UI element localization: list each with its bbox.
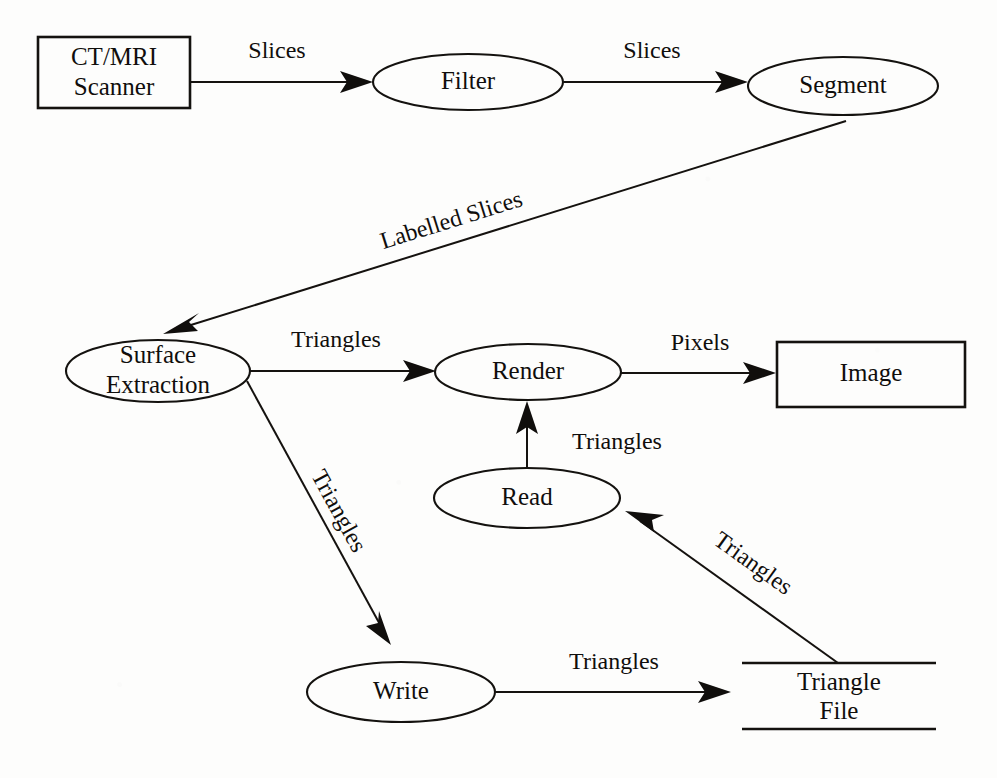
edge-label-triangles-1: Triangles <box>291 326 381 352</box>
edge-line <box>178 121 846 329</box>
scanner-label-line1: CT/MRI <box>71 43 157 70</box>
arrow-head-icon <box>366 611 391 645</box>
edge-filter-to-segment: Slices <box>564 37 748 94</box>
node-surface-extraction[interactable]: Surface Extraction <box>66 340 250 402</box>
node-segment[interactable]: Segment <box>748 57 938 115</box>
node-filter[interactable]: Filter <box>373 54 563 110</box>
node-render[interactable]: Render <box>435 344 621 400</box>
edge-render-to-image: Pixels <box>621 329 776 385</box>
edge-label-pixels: Pixels <box>671 329 730 355</box>
arrow-head-icon <box>625 511 664 532</box>
pipeline-diagram: Slices Slices Labelled Slices Triangles … <box>0 0 997 778</box>
triangle-file-label-line2: File <box>820 697 859 724</box>
edge-surface-to-write: Triangles <box>247 381 391 645</box>
edge-read-to-render: Triangles <box>516 401 662 468</box>
edge-label-slices-2: Slices <box>623 37 680 63</box>
node-image[interactable]: Image <box>777 342 965 407</box>
node-scanner[interactable]: CT/MRI Scanner <box>38 37 190 108</box>
edge-label-triangles-5: Triangles <box>709 526 797 600</box>
filter-label: Filter <box>441 67 496 94</box>
surface-extraction-label-line1: Surface <box>120 341 196 368</box>
write-label: Write <box>373 677 429 704</box>
node-read[interactable]: Read <box>434 468 620 528</box>
triangle-file-label-line1: Triangle <box>797 668 881 695</box>
read-label: Read <box>501 483 553 510</box>
image-label: Image <box>840 359 902 386</box>
edge-surface-to-render: Triangles <box>250 326 436 383</box>
scanner-label-line2: Scanner <box>74 73 155 100</box>
edge-file-to-read: Triangles <box>625 511 838 663</box>
node-triangle-file[interactable]: Triangle File <box>742 663 936 729</box>
edge-scanner-to-filter: Slices <box>191 37 373 94</box>
render-label: Render <box>492 357 565 384</box>
edge-segment-to-surface: Labelled Slices <box>163 121 846 334</box>
edge-write-to-file: Triangles <box>496 648 731 704</box>
surface-extraction-label-line2: Extraction <box>106 371 211 398</box>
edge-line <box>247 381 383 630</box>
edge-label-triangles-4: Triangles <box>569 648 659 674</box>
node-write[interactable]: Write <box>307 662 495 722</box>
edge-label-slices-1: Slices <box>248 37 305 63</box>
segment-label: Segment <box>799 71 887 98</box>
edge-label-triangles-2: Triangles <box>572 428 662 454</box>
edge-label-triangles-3: Triangles <box>306 465 372 556</box>
diagram-canvas: Slices Slices Labelled Slices Triangles … <box>0 0 997 778</box>
